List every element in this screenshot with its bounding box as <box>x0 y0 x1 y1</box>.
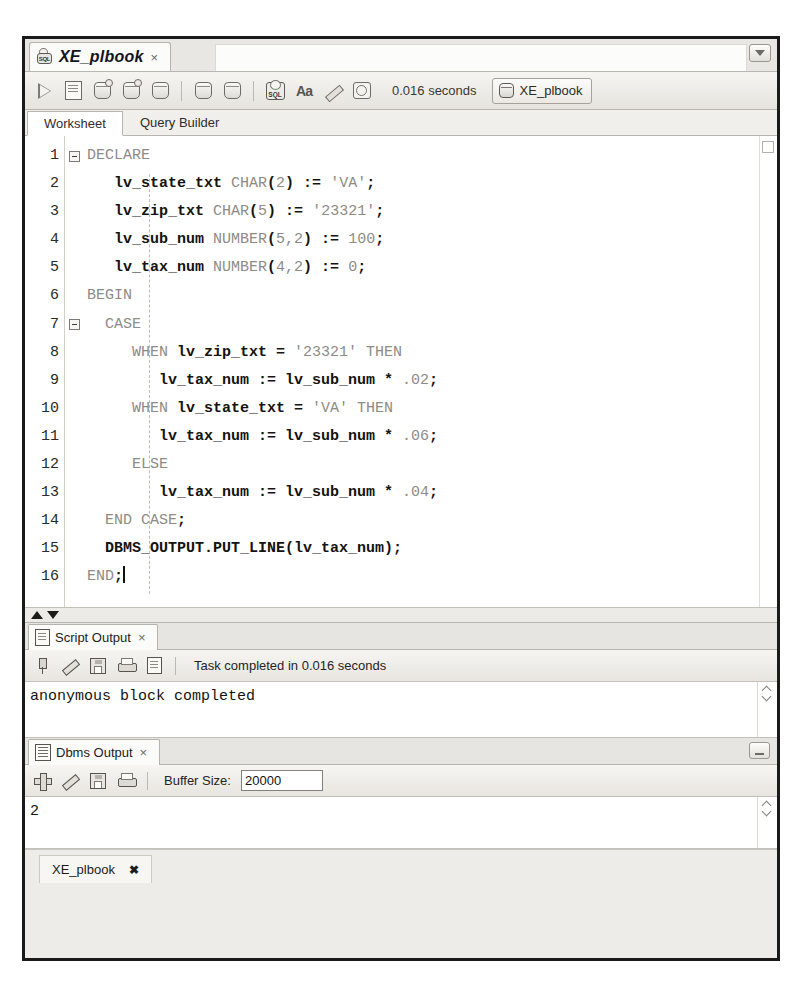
worksheet-toolbar: SQL Aa 0.016 seconds XE_plbook <box>25 72 777 110</box>
enable-dbms-output-button[interactable] <box>31 770 53 792</box>
code-line: lv_sub_num NUMBER(5,2) := 100; <box>83 226 759 254</box>
clear-worksheet-button[interactable] <box>320 78 346 104</box>
code-token: lv_zip_txt <box>177 344 267 361</box>
tab-dbms-output[interactable]: Dbms Output × <box>28 739 160 765</box>
code-token: ; <box>429 372 438 389</box>
worksheet-tab[interactable]: SQL XE_plbook × <box>29 42 171 71</box>
code-token: 0 <box>348 259 357 276</box>
connection-name: XE_plbook <box>520 83 583 98</box>
fold-slot[interactable] <box>65 142 83 170</box>
run-statement-button[interactable] <box>31 78 57 104</box>
autotrace-button[interactable] <box>219 78 245 104</box>
line-number: 7 <box>25 311 64 339</box>
code-token: := <box>312 259 348 276</box>
connection-selector[interactable]: XE_plbook <box>492 78 593 104</box>
clear-dbms-output-button[interactable] <box>59 770 81 792</box>
dbms-output-tabstrip: Dbms Output × <box>25 738 777 765</box>
format-button[interactable]: Aa <box>291 78 317 104</box>
tab-query-builder[interactable]: Query Builder <box>123 110 236 135</box>
fold-slot <box>65 563 83 591</box>
buffer-size-input[interactable] <box>241 770 323 791</box>
explain-plan-button[interactable] <box>190 78 216 104</box>
code-token: lv_tax_num <box>159 372 249 389</box>
dbms-output-tab-label: Dbms Output <box>56 745 133 760</box>
restore-window-icon[interactable] <box>749 742 770 759</box>
code-fold-icon[interactable] <box>69 319 80 330</box>
code-fold-column[interactable] <box>65 136 83 607</box>
connection-tab[interactable]: XE_plbook ✖ <box>39 855 152 883</box>
run-triangle-icon <box>38 83 51 99</box>
line-number: 14 <box>25 507 64 535</box>
code-token: THEN <box>357 400 393 417</box>
code-token: lv_sub_num <box>114 231 213 248</box>
collapse-down-icon[interactable] <box>47 611 59 619</box>
print-output-button[interactable] <box>115 655 137 677</box>
line-number: 15 <box>25 535 64 563</box>
save-dbms-output-button[interactable] <box>87 770 109 792</box>
commit-button[interactable] <box>89 78 115 104</box>
code-line: lv_zip_txt CHAR(5) := '23321'; <box>83 198 759 226</box>
code-token: .02 <box>402 372 429 389</box>
dbms-output-content-area[interactable]: 2 <box>25 797 777 849</box>
code-token <box>87 456 132 473</box>
chevron-down-icon[interactable] <box>749 44 771 62</box>
print-dbms-output-button[interactable] <box>115 770 137 792</box>
query-history-button[interactable] <box>349 78 375 104</box>
code-text[interactable]: DECLARE lv_state_txt CHAR(2) := 'VA'; lv… <box>83 136 759 607</box>
code-token: ) <box>267 203 276 220</box>
editor-scrollbar[interactable] <box>759 136 777 607</box>
save-disk-icon <box>90 658 106 674</box>
close-icon[interactable]: × <box>136 631 148 644</box>
code-token: CHAR <box>213 203 249 220</box>
pin-output-button[interactable] <box>31 655 53 677</box>
code-token: ( <box>267 259 276 276</box>
save-output-button[interactable] <box>87 655 109 677</box>
code-token: THEN <box>366 344 402 361</box>
script-output-scrollbar[interactable] <box>757 682 777 737</box>
code-token: ELSE <box>132 456 168 473</box>
save-disk-icon <box>90 773 106 789</box>
scroll-up-icon[interactable] <box>763 801 772 807</box>
close-icon[interactable]: × <box>138 746 150 759</box>
script-output-tab-label: Script Output <box>55 630 131 645</box>
code-token: = <box>267 344 294 361</box>
code-token: BEGIN <box>87 287 132 304</box>
code-token: * <box>375 372 402 389</box>
run-script-button[interactable] <box>60 78 86 104</box>
collapse-up-icon[interactable] <box>31 611 43 619</box>
scroll-down-icon[interactable] <box>763 693 772 699</box>
code-token: ; <box>357 259 366 276</box>
code-editor[interactable]: 12345678910111213141516 DECLARE lv_state… <box>25 136 759 607</box>
scroll-up-icon[interactable] <box>763 686 772 692</box>
code-token: ; <box>375 231 384 248</box>
close-icon[interactable]: ✖ <box>129 863 139 877</box>
output-toolbar-divider <box>175 657 176 675</box>
code-token: ) <box>303 259 312 276</box>
close-icon[interactable]: × <box>148 51 160 64</box>
code-line: DBMS_OUTPUT.PUT_LINE(lv_tax_num); <box>83 535 759 563</box>
code-line: lv_tax_num := lv_sub_num * .04; <box>83 479 759 507</box>
fold-slot[interactable] <box>65 311 83 339</box>
panel-splitter[interactable] <box>25 608 777 623</box>
unshared-sql-worksheet-button[interactable] <box>147 78 173 104</box>
tab-script-output[interactable]: Script Output × <box>28 624 158 650</box>
code-token: 100 <box>348 231 375 248</box>
editor-marker-box <box>762 141 774 153</box>
tab-worksheet[interactable]: Worksheet <box>27 111 123 136</box>
code-token: := <box>249 428 285 445</box>
autotrace-db-icon <box>224 82 241 99</box>
code-token: 'VA' <box>330 175 366 192</box>
dbms-output-scrollbar[interactable] <box>757 797 777 848</box>
fold-slot <box>65 395 83 423</box>
clear-output-button[interactable] <box>59 655 81 677</box>
sql-history-button[interactable]: SQL <box>262 78 288 104</box>
code-token: := <box>294 175 330 192</box>
code-fold-icon[interactable] <box>69 151 80 162</box>
code-token: WHEN <box>132 400 177 417</box>
open-output-button[interactable] <box>143 655 165 677</box>
script-output-content-area[interactable]: anonymous block completed <box>25 682 777 738</box>
explain-plan-icon <box>195 82 212 99</box>
rollback-button[interactable] <box>118 78 144 104</box>
sql-worksheet-icon: SQL <box>36 48 54 66</box>
scroll-down-icon[interactable] <box>763 808 772 814</box>
